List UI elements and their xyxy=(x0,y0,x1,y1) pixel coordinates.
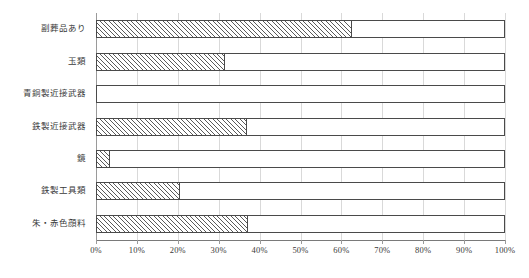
tick-mark-0pct xyxy=(96,240,97,244)
category-label: 朱・赤色顔料 xyxy=(32,219,86,228)
category-label: 鉄製近接武器 xyxy=(32,122,86,131)
category-label: 青銅製近接武器 xyxy=(23,89,86,98)
bar-fill xyxy=(96,118,247,136)
x-tick-label: 100% xyxy=(495,246,516,255)
bar-row xyxy=(96,150,505,168)
category-label: 副葬品あり xyxy=(41,24,86,33)
tick-mark-70pct xyxy=(382,240,383,244)
bar-fill xyxy=(96,53,225,71)
x-tick-label: 50% xyxy=(292,246,308,255)
category-label: 玉類 xyxy=(68,57,86,66)
tick-mark-40pct xyxy=(260,240,261,244)
category-axis-labels: 副葬品あり玉類青銅製近接武器鉄製近接武器鏡鉄製工具類朱・赤色顔料 xyxy=(0,0,90,278)
x-tick-label: 60% xyxy=(333,246,349,255)
x-tick-label: 80% xyxy=(415,246,431,255)
x-tick-label: 40% xyxy=(252,246,268,255)
tick-mark-80pct xyxy=(423,240,424,244)
tick-mark-60pct xyxy=(341,240,342,244)
bar-row xyxy=(96,20,505,38)
x-tick-label: 10% xyxy=(129,246,145,255)
bar-fill xyxy=(96,150,110,168)
plot-area xyxy=(96,13,505,240)
bar-row xyxy=(96,118,505,136)
tick-mark-30pct xyxy=(219,240,220,244)
gridline-100pct xyxy=(505,13,506,240)
x-axis-tick-labels: 0%10%20%30%40%50%60%70%80%90%100% xyxy=(0,246,529,266)
horizontal-bar-chart: 副葬品あり玉類青銅製近接武器鉄製近接武器鏡鉄製工具類朱・赤色顔料 0%10%20… xyxy=(0,0,529,278)
bar-total-outline xyxy=(96,85,505,103)
tick-mark-10pct xyxy=(137,240,138,244)
tick-mark-50pct xyxy=(301,240,302,244)
bar-row xyxy=(96,215,505,233)
x-tick-label: 90% xyxy=(456,246,472,255)
x-tick-label: 0% xyxy=(90,246,102,255)
category-label: 鏡 xyxy=(77,154,86,163)
category-label: 鉄製工具類 xyxy=(41,186,86,195)
tick-mark-100pct xyxy=(505,240,506,244)
bar-fill xyxy=(96,20,352,38)
x-tick-label: 70% xyxy=(374,246,390,255)
bar-row xyxy=(96,182,505,200)
x-tick-label: 20% xyxy=(170,246,186,255)
tick-mark-20pct xyxy=(178,240,179,244)
bar-fill xyxy=(96,182,180,200)
x-tick-label: 30% xyxy=(211,246,227,255)
bar-row xyxy=(96,85,505,103)
bar-total-outline xyxy=(96,150,505,168)
bar-fill xyxy=(96,215,248,233)
bar-row xyxy=(96,53,505,71)
tick-mark-90pct xyxy=(464,240,465,244)
